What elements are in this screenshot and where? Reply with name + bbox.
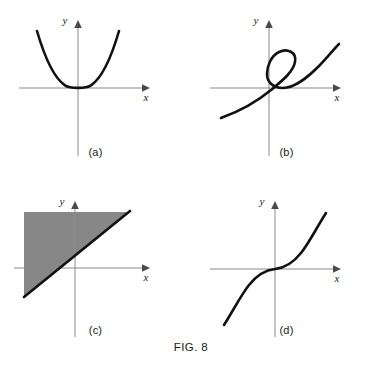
y-axis-label: y [253,14,259,26]
y-axis-arrowhead [71,201,79,209]
y-axis-arrowhead [271,201,279,209]
y-axis-label: y [59,195,65,207]
panel-a: y x (a) [0,0,191,170]
panel-c: y x (c) [0,185,191,355]
panel-b-plot: y x [191,0,382,170]
panel-a-sublabel: (a) [0,146,191,158]
figure-caption: FIG. 8 [0,341,382,353]
panel-d-sublabel: (d) [191,324,382,336]
y-axis-label: y [259,195,265,207]
panel-a-plot: y x [0,0,191,170]
y-axis-arrowhead [265,20,273,28]
sideways-cubic-curve [221,44,339,118]
figure-container: y x (a) y x (b) y [0,0,382,375]
panel-c-sublabel: (c) [0,324,191,336]
x-axis-label: x [334,91,340,103]
x-axis-label: x [334,272,340,284]
y-axis-arrowhead [74,20,82,28]
panel-b: y x (b) [191,0,382,170]
y-axis-label: y [62,14,68,26]
x-axis-label: x [143,271,149,283]
panel-d: y x (d) [191,185,382,355]
panel-b-sublabel: (b) [191,146,382,158]
x-axis-label: x [143,91,149,103]
